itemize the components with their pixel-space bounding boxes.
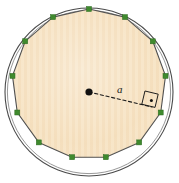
apothem-label: a	[117, 84, 123, 95]
vertex-marker	[123, 15, 128, 20]
inscribed-polygon-diagram	[0, 0, 179, 183]
vertex-marker	[51, 15, 56, 20]
vertex-marker	[103, 155, 108, 160]
vertex-marker	[158, 110, 163, 115]
vertex-marker	[10, 73, 15, 78]
vertex-marker	[23, 39, 28, 44]
center-dot	[85, 88, 92, 95]
vertex-marker	[87, 7, 92, 12]
vertex-marker	[163, 73, 168, 78]
vertex-marker	[36, 140, 41, 145]
vertex-marker	[70, 155, 75, 160]
vertex-marker	[150, 39, 155, 44]
vertex-marker	[137, 140, 142, 145]
vertex-marker	[15, 110, 20, 115]
geometry-figure: a	[0, 0, 179, 183]
polygon-shading-overlay	[13, 9, 166, 157]
